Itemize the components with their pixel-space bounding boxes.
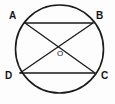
vertex-label-d: D xyxy=(5,71,12,81)
segment-db xyxy=(20,23,93,73)
segment-ac xyxy=(25,23,95,73)
vertex-label-a: A xyxy=(9,11,16,21)
vertex-label-c: C xyxy=(101,71,108,81)
geometry-figure: A B D C O xyxy=(0,0,115,104)
center-label-o: O xyxy=(57,50,63,58)
vertex-label-b: B xyxy=(96,11,103,21)
